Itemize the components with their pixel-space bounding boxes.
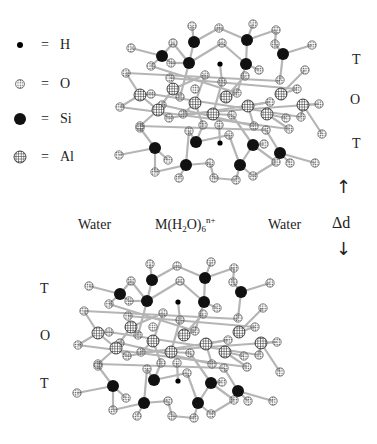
legend-oxygen: = O — [8, 74, 70, 94]
oxygen-atom — [176, 277, 184, 285]
oxygen-atom — [164, 156, 172, 164]
silicon-atom — [141, 295, 153, 307]
top-layer-label-t1: T — [352, 52, 361, 68]
oxygen-atom — [105, 328, 113, 336]
silicon-atom — [148, 374, 160, 386]
arrow-down-icon: ↓ — [336, 238, 351, 259]
oxygen-atom — [122, 394, 130, 402]
oxygen-atom — [315, 100, 323, 108]
oxygen-atom — [262, 126, 270, 134]
legend-label-o: O — [60, 76, 70, 92]
silicon-atom — [138, 397, 150, 409]
aluminum-atom — [220, 91, 232, 103]
oxygen-atom — [233, 89, 241, 97]
oxygen-atom — [210, 174, 218, 182]
aluminum-atom — [134, 89, 146, 101]
bottom-tot-layer — [73, 258, 284, 422]
oxygen-atom — [133, 412, 141, 420]
oxygen-atom — [286, 159, 294, 167]
oxygen-atom — [188, 22, 196, 30]
legend-hydrogen: = H — [8, 35, 70, 55]
silicon-atom — [235, 286, 247, 298]
arrow-up-icon: ↑ — [336, 176, 351, 197]
oxygen-atom — [259, 304, 267, 312]
top-tot-layer — [115, 20, 326, 184]
silicon-atom — [114, 288, 126, 300]
oxygen-atom — [301, 66, 309, 74]
oxygen-atom — [208, 360, 216, 368]
aluminum-atom — [165, 346, 177, 358]
silicon-atom — [234, 159, 246, 171]
aluminum-atom — [110, 342, 122, 354]
oxygen-atom — [115, 151, 123, 159]
aluminum-atom — [261, 108, 273, 120]
oxygen-atom — [149, 323, 157, 331]
oxygen-atom — [85, 282, 93, 290]
oxygen-atom — [271, 40, 279, 48]
oxygen-atom — [234, 314, 242, 322]
oxygen-atom — [276, 76, 284, 84]
aluminum-atom — [125, 321, 137, 333]
silicon-atom — [247, 139, 259, 151]
legend-symbols — [14, 42, 26, 163]
oxygen-atom — [185, 127, 193, 135]
aluminum-atom — [189, 97, 201, 109]
legend-label-si: Si — [60, 111, 72, 127]
oxygen-atom — [272, 26, 280, 34]
oxygen-atom — [166, 74, 174, 82]
bottom-layer-label-t1: T — [40, 281, 49, 297]
legend-equals: = — [30, 37, 60, 53]
oxygen-atom — [266, 98, 274, 106]
legend-label-h: H — [60, 37, 70, 53]
silicon-atom — [156, 50, 168, 62]
hydrogen-atom — [175, 378, 180, 383]
oxygen-atom — [218, 78, 226, 86]
oxygen-atom — [293, 85, 301, 93]
silicon-atom — [107, 380, 119, 392]
oxygen-atom — [241, 72, 249, 80]
oxygen-atom — [297, 113, 305, 121]
oxygen-atom — [232, 176, 240, 184]
oxygen-atom — [134, 331, 142, 339]
silicon-atom — [146, 274, 158, 286]
oxygen-atom — [122, 69, 130, 77]
oxygen-atom — [147, 62, 155, 70]
oxygen-atom — [213, 304, 221, 312]
oxygen-atom — [176, 316, 184, 324]
oxygen-atom — [220, 364, 228, 372]
silicon-atom — [188, 36, 200, 48]
bottom-layer-label-t2: T — [40, 376, 49, 392]
oxygen-atom — [165, 114, 173, 122]
aluminum-atom — [200, 338, 212, 350]
oxygen-atom — [146, 260, 154, 268]
oxygen-atom — [207, 410, 215, 418]
oxygen-atom — [266, 279, 274, 287]
oxygen-atom — [218, 378, 226, 386]
oxygen-atom — [191, 85, 199, 93]
oxygen-atom — [308, 41, 316, 49]
oxygen-atom — [167, 59, 175, 67]
aluminum-atom — [297, 99, 309, 111]
aluminum-atom — [255, 337, 267, 349]
oxygen-atom — [250, 122, 258, 130]
oxygen-atom — [251, 323, 259, 331]
silicon-atom — [190, 136, 202, 148]
oxygen-atom — [215, 24, 223, 32]
oxygen-atom — [218, 39, 226, 47]
legend-aluminum: = Al — [8, 147, 74, 167]
bottom-layer-label-o: O — [40, 328, 50, 344]
oxygen-atom — [116, 103, 124, 111]
oxygen-atom — [285, 125, 293, 133]
top-layer-label-o: O — [350, 92, 360, 108]
oxygen-atom — [137, 348, 145, 356]
silicon-atom — [198, 296, 210, 308]
hydrogen-atom — [217, 140, 222, 145]
oxygen-atom — [230, 396, 238, 404]
aluminum-atom — [167, 83, 179, 95]
oxygen-atom — [207, 258, 215, 266]
oxygen-atom — [123, 352, 131, 360]
oxygen-atom — [151, 168, 159, 176]
legend-equals: = — [30, 149, 60, 165]
silicon-atom — [274, 147, 286, 159]
oxygen-atom — [105, 300, 113, 308]
